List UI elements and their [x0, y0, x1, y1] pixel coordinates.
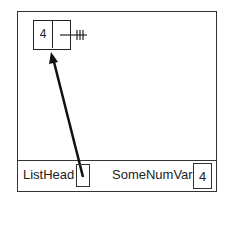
somenumvar-label: SomeNumVar	[112, 167, 193, 182]
pointer-arrow	[54, 62, 83, 177]
somenumvar-box: 4	[193, 163, 212, 189]
listhead-label: ListHead	[23, 167, 74, 182]
arrowhead-icon	[49, 52, 58, 64]
listhead-box	[76, 164, 90, 187]
